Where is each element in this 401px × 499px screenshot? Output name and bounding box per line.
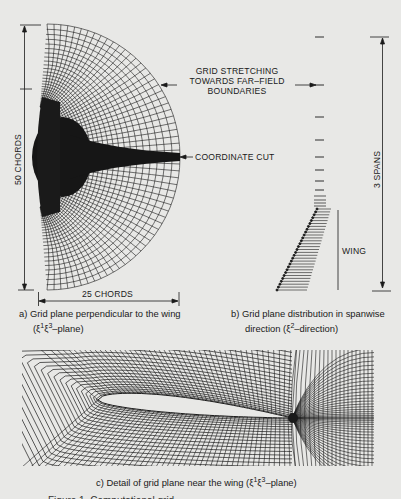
wing-label: WING (342, 246, 366, 256)
coordinate-cut-label: COORDINATE CUT (195, 152, 275, 162)
caption-b-line1: b) Grid plane distribution in spanwise (231, 308, 385, 320)
caption-a-line1: a) Grid plane perpendicular to the wing (19, 308, 181, 320)
caption-a: a) Grid plane perpendicular to the wing … (19, 308, 181, 335)
fifty-chords-label: 50 CHORDS (13, 134, 23, 185)
caption-b-line2: direction (ξ2–direction) (231, 320, 385, 335)
stretching-line-1: GRID STRETCHING (182, 66, 292, 76)
stretching-line-3: BOUNDARIES (182, 86, 292, 96)
three-spans-label: 3 SPANS (372, 151, 382, 188)
caption-b: b) Grid plane distribution in spanwise d… (231, 308, 385, 335)
twenty-five-chords-label: 25 CHORDS (82, 289, 133, 299)
caption-c: c) Detail of grid plane near the wing (ξ… (96, 474, 297, 489)
grid-stretching-annotation: GRID STRETCHING TOWARDS FAR–FIELD BOUNDA… (182, 66, 292, 96)
footer-partial-text: Figure 1. Computational grid ... (48, 495, 348, 499)
caption-a-line2: (ξ1ξ3–plane) (19, 320, 181, 335)
stretching-line-2: TOWARDS FAR–FIELD (182, 76, 292, 86)
